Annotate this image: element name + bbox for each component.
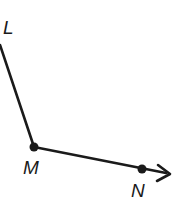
label-l: L (3, 17, 14, 38)
segment-lm (0, 45, 34, 147)
point-m-dot (30, 143, 39, 152)
label-n: N (131, 180, 145, 201)
label-m: M (23, 157, 39, 178)
point-n-dot (138, 165, 147, 174)
angle-diagram: L M N (0, 0, 191, 221)
